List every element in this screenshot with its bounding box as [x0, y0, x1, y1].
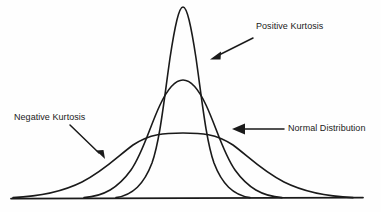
leader-positive-kurtosis [210, 38, 253, 60]
arrowhead-normal-distribution [232, 124, 245, 135]
label-negative-kurtosis: Negative Kurtosis [14, 112, 85, 123]
curve-normal-distribution [84, 80, 282, 198]
label-positive-kurtosis: Positive Kurtosis [256, 21, 323, 32]
curves-canvas [0, 0, 381, 212]
baseline-axis [11, 198, 363, 199]
kurtosis-diagram: Positive Kurtosis Negative Kurtosis Norm… [0, 0, 381, 212]
curve-negative-kurtosis [13, 133, 353, 198]
leader-negative-kurtosis [70, 125, 105, 159]
curve-positive-kurtosis [116, 7, 250, 198]
arrowhead-positive-kurtosis [210, 52, 221, 60]
leader-normal-distribution [232, 124, 284, 135]
arrowhead-negative-kurtosis [96, 150, 105, 159]
label-normal-distribution: Normal Distribution [288, 123, 365, 134]
